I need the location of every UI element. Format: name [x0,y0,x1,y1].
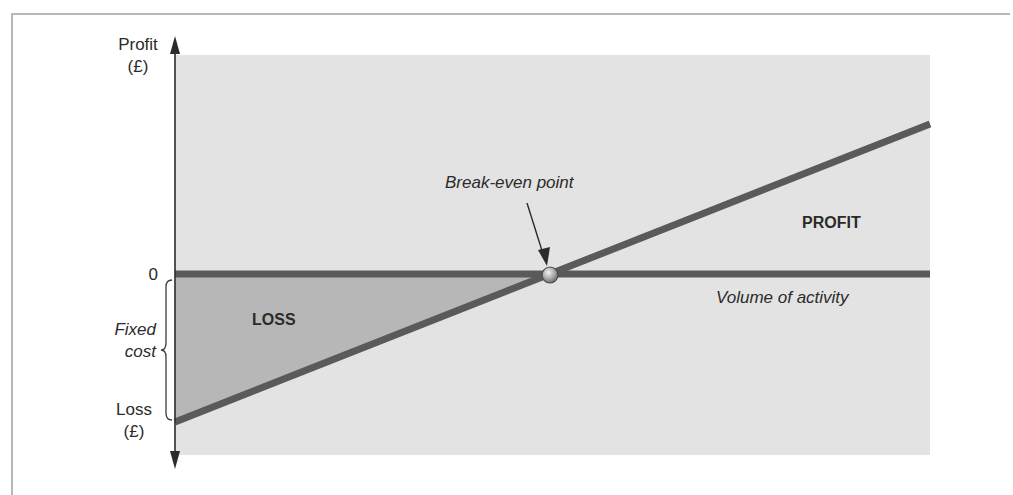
fixed-cost-label: Fixed cost [100,319,156,363]
y-axis-up-arrow-icon [170,36,180,54]
plot-background [175,55,930,455]
profit-currency-label: (£) [108,56,168,78]
loss-label: Loss [104,399,164,421]
profit-label: Profit [108,34,168,56]
y-axis-bottom-label: Loss (£) [104,399,164,443]
profit-region-label: PROFIT [802,212,861,234]
fixed-cost-line2: cost [100,341,156,363]
y-axis-down-arrow-icon [170,451,180,469]
loss-currency-label: (£) [104,421,164,443]
break-even-point-marker [542,267,558,283]
y-axis-top-label: Profit (£) [108,34,168,78]
loss-region-label: LOSS [252,309,296,331]
x-axis-label: Volume of activity [716,287,849,309]
fixed-cost-line1: Fixed [100,319,156,341]
zero-label: 0 [120,264,158,286]
break-even-label: Break-even point [445,172,574,194]
